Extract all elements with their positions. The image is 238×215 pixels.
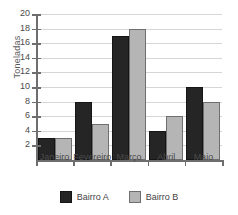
plot-area: [36, 14, 222, 160]
y-tick-label: 6: [2, 111, 30, 120]
y-tick-label: 20: [2, 9, 30, 18]
legend-swatch-icon-bairro-b: [129, 191, 141, 203]
y-tick-mark: [32, 131, 41, 133]
y-tick-label: 16: [2, 38, 30, 47]
bar-group: [112, 14, 146, 160]
x-tick-label: Março: [110, 152, 147, 162]
bar-chart: Toneladas 2468101214161820 JaneiroFevere…: [0, 0, 238, 215]
y-tick-label: 8: [2, 97, 30, 106]
x-tick-label: Abril: [148, 152, 185, 162]
bar-bairro-a[interactable]: [112, 36, 129, 160]
y-tick-label: 10: [2, 82, 30, 91]
y-tick-mark: [32, 29, 41, 31]
legend-swatch-icon-bairro-a: [60, 191, 72, 203]
y-tick-mark: [32, 43, 41, 45]
y-tick-mark: [32, 58, 41, 60]
y-tick-mark: [32, 72, 41, 74]
y-tick-mark: [32, 14, 41, 16]
bar-bairro-b[interactable]: [129, 29, 146, 160]
legend-label-bairro-a: Bairro A: [77, 192, 109, 202]
y-tick-label: 18: [2, 24, 30, 33]
bar-group: [75, 14, 109, 160]
x-tick-label: Janeiro: [36, 152, 73, 162]
y-tick-label: 14: [2, 53, 30, 62]
chart-legend: Bairro A Bairro B: [0, 191, 238, 203]
x-tick-label: Fevereiro: [73, 152, 110, 162]
legend-label-bairro-b: Bairro B: [146, 192, 179, 202]
bar-group: [38, 14, 72, 160]
x-tick-label: Maio: [185, 152, 222, 162]
y-tick-mark: [32, 102, 41, 104]
y-tick-label: 12: [2, 67, 30, 76]
legend-item-bairro-b[interactable]: Bairro B: [129, 191, 179, 203]
y-tick-mark: [32, 87, 41, 89]
y-tick-label: 4: [2, 126, 30, 135]
y-tick-mark: [32, 145, 41, 147]
y-tick-label: 2: [2, 140, 30, 149]
x-tick-mark: [222, 160, 224, 166]
bar-group: [149, 14, 183, 160]
y-tick-mark: [32, 116, 41, 118]
bar-bairro-a[interactable]: [186, 87, 203, 160]
legend-item-bairro-a[interactable]: Bairro A: [60, 191, 109, 203]
bar-group: [186, 14, 220, 160]
